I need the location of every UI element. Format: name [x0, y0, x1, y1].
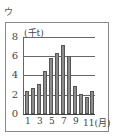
bar-month-6 [55, 53, 59, 114]
y-tick-label: 4 [8, 69, 18, 80]
bar-month-1 [25, 91, 29, 114]
x-tick-label: 9 [73, 116, 79, 126]
panel-label: ウ [4, 5, 13, 18]
x-tick-label: 1 [25, 116, 31, 126]
bar-month-2 [31, 88, 35, 114]
bar-month-9 [73, 86, 77, 114]
y-tick-label: 8 [8, 31, 18, 42]
bar-month-5 [49, 58, 53, 114]
y-axis [23, 37, 24, 115]
y-tick-label: 6 [8, 50, 18, 61]
x-tick-label: 5 [49, 116, 55, 126]
x-tick-label: 7 [61, 116, 67, 126]
x-tick-label: 3 [37, 116, 43, 126]
gridline [23, 56, 95, 57]
bar-month-4 [43, 71, 47, 114]
bar-month-11 [85, 97, 89, 114]
gridline [23, 75, 95, 76]
x-axis [23, 114, 95, 115]
bar-month-12 [90, 91, 94, 114]
y-tick-label: 2 [8, 89, 18, 100]
y-tick-label: 0 [8, 108, 18, 119]
bar-month-10 [79, 94, 83, 114]
bar-month-8 [67, 56, 71, 114]
bar-month-3 [37, 84, 41, 114]
x-tick-label: 11(月) [83, 116, 110, 129]
bar-month-7 [61, 45, 65, 114]
gridline [23, 37, 95, 38]
